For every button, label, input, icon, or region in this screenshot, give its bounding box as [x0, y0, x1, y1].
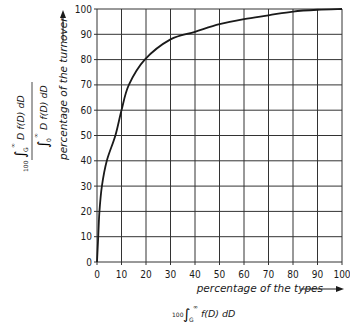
x-tick-label: 30	[165, 269, 177, 280]
y-tick-label: 20	[81, 206, 93, 217]
x-tick-label: 70	[263, 269, 275, 280]
y-tick-label: 90	[81, 29, 93, 40]
y-tick-label: 60	[81, 105, 93, 116]
x-tick-label: 90	[312, 269, 324, 280]
svg-text:f(D) dD: f(D) dD	[201, 308, 235, 319]
x-tick-label: 0	[94, 269, 100, 280]
tick-labels: 0102030405060708090100010203040506070809…	[75, 4, 350, 281]
y-tick-label: 0	[86, 257, 92, 268]
svg-text:100: 100	[172, 311, 184, 318]
y-tick-label: 80	[81, 54, 93, 65]
x-tick-label: 60	[238, 269, 250, 280]
x-tick-label: 40	[189, 269, 201, 280]
x-axis-label: percentage of the types	[196, 282, 324, 294]
y-tick-label: 30	[81, 181, 93, 192]
y-tick-label: 50	[81, 130, 93, 141]
svg-text:∞: ∞	[9, 143, 16, 148]
svg-text:D f(D) dD: D f(D) dD	[15, 95, 26, 140]
y-axis-formula: 100 ∫ G ∞ D f(D) dD ∫ 0 ∞ D f(D) dD	[9, 82, 52, 172]
y-tick-label: 100	[75, 4, 92, 15]
y-tick-label: 10	[81, 231, 93, 242]
x-tick-label: 10	[116, 269, 128, 280]
svg-text:G: G	[22, 147, 29, 152]
x-tick-label: 100	[333, 269, 350, 280]
svg-text:∞: ∞	[32, 133, 39, 138]
svg-text:D f(D) dD: D f(D) dD	[38, 85, 49, 130]
x-tick-label: 50	[214, 269, 226, 280]
y-tick-label: 70	[81, 79, 93, 90]
svg-text:0: 0	[45, 138, 52, 142]
svg-text:G: G	[189, 316, 194, 323]
x-tick-label: 20	[140, 269, 152, 280]
svg-text:100: 100	[22, 160, 29, 172]
x-axis-formula: 100 ∫ G ∞ f(D) dD	[172, 303, 235, 323]
x-tick-label: 80	[287, 269, 299, 280]
svg-text:∞: ∞	[193, 303, 198, 310]
y-tick-label: 40	[81, 155, 93, 166]
chart: 0102030405060708090100010203040506070809…	[0, 0, 350, 328]
grid	[94, 9, 342, 265]
